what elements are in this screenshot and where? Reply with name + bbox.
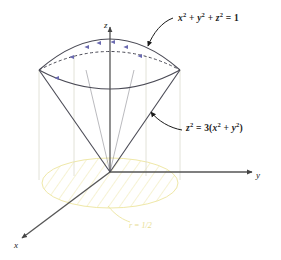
radius-annotation-label: r = 1/2 xyxy=(129,221,152,230)
flux-arrows-group xyxy=(57,42,140,131)
math-diagram-figure: x2 + y2 + z2 = 1 z2 = 3(x2 + y2) z y x r… xyxy=(0,0,281,260)
leader-arrow-sphere xyxy=(148,18,173,46)
cone-eq-x-exp: 2 xyxy=(217,121,220,128)
sphere-eq-y-exp: 2 xyxy=(202,11,205,18)
cone-edge-right xyxy=(110,70,180,172)
sphere-equation-label: x2 + y2 + z2 = 1 xyxy=(178,11,239,23)
cone-eq-close-paren: ) xyxy=(240,123,243,133)
cone-eq-equals: = xyxy=(196,123,202,133)
cone-eq-z-exp: 2 xyxy=(190,121,193,128)
sphere-eq-x-exp: 2 xyxy=(183,11,186,18)
x-axis-label: x xyxy=(14,240,18,250)
z-axis-label: z xyxy=(104,20,108,30)
leader-arrow-cone xyxy=(151,112,182,130)
sphere-eq-equals: = xyxy=(226,13,232,23)
cone-equation-label: z2 = 3(x2 + y2) xyxy=(186,121,243,133)
sphere-eq-plus2: + xyxy=(208,13,214,23)
sphere-eq-z-exp: 2 xyxy=(220,11,223,18)
cone-edge-inner-left xyxy=(86,70,110,172)
y-axis-label: y xyxy=(256,170,260,180)
cone-eq-plus: + xyxy=(223,123,229,133)
sphere-eq-value: 1 xyxy=(234,13,239,23)
sphere-eq-plus1: + xyxy=(189,13,195,23)
